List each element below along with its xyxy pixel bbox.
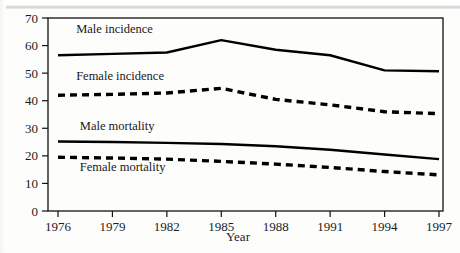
series-line-male-incidence: [58, 40, 439, 71]
series-label-female-mortality: Female mortality: [80, 160, 166, 174]
x-tick-label: 1994: [372, 219, 399, 234]
y-tick-label: 30: [25, 121, 38, 136]
x-tick-label: 1991: [317, 219, 343, 234]
y-tick-label: 40: [25, 93, 38, 108]
series-lines: [58, 40, 439, 175]
x-tick-label: 1979: [99, 219, 125, 234]
figure-panel: 010203040506070 197619791982198519881991…: [0, 0, 460, 253]
x-tick-label: 1988: [263, 219, 289, 234]
series-label-male-mortality: Male mortality: [80, 119, 155, 133]
series-line-male-mortality: [58, 142, 439, 160]
y-tick-label: 10: [25, 176, 38, 191]
plot-frame: [48, 18, 443, 211]
y-tick-label: 50: [25, 66, 38, 81]
x-tick-label: 1997: [426, 219, 453, 234]
line-chart: 010203040506070 197619791982198519881991…: [0, 0, 460, 253]
y-tick-label: 70: [25, 11, 38, 26]
y-tick-label: 0: [32, 204, 39, 219]
x-tick-label: 1982: [154, 219, 180, 234]
series-inline-labels: Male incidenceFemale incidenceMale morta…: [76, 22, 166, 174]
x-axis-title: Year: [226, 229, 251, 244]
y-tick-label: 20: [25, 148, 38, 163]
y-tick-label: 60: [25, 38, 38, 53]
series-label-male-incidence: Male incidence: [76, 22, 153, 36]
series-line-female-incidence: [58, 88, 439, 113]
x-tick-label: 1976: [45, 219, 72, 234]
series-label-female-incidence: Female incidence: [76, 69, 164, 83]
y-axis-ticks: 010203040506070: [25, 11, 48, 219]
plot-border: [48, 18, 443, 211]
